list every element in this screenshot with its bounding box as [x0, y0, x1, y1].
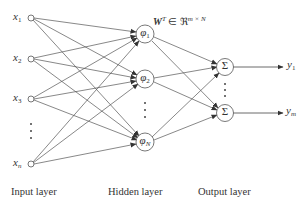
- sum-node-1: Σ: [217, 59, 233, 71]
- output-arrows: [233, 67, 283, 113]
- real-set-symbol: ∈ ℜ: [166, 16, 188, 27]
- input-nodes: [28, 15, 34, 167]
- hidden-nodes: [136, 25, 154, 151]
- input-label-xn: xn: [13, 156, 21, 170]
- output-label-ym: ym: [286, 104, 296, 118]
- input-to-hidden-connections: [33, 18, 139, 164]
- hidden-node-phi2: φ2: [136, 71, 154, 85]
- hidden-node-phiN: φN: [136, 134, 154, 148]
- hidden-node-phi1: φ1: [136, 26, 154, 40]
- hidden-to-output-connections: [152, 37, 219, 140]
- dimension-label: m × N: [188, 15, 206, 23]
- sum-node-m: Σ: [217, 105, 233, 117]
- input-layer-label: Input layer: [11, 186, 57, 197]
- input-label-x1: x1: [13, 10, 21, 24]
- weight-symbol: W: [153, 16, 162, 27]
- weight-matrix-label: WT ∈ ℜm × N: [153, 15, 206, 27]
- input-label-x2: x2: [13, 51, 21, 65]
- hidden-layer-label: Hidden layer: [108, 186, 163, 197]
- output-label-y1: y1: [287, 58, 295, 72]
- input-label-x3: x3: [13, 91, 21, 105]
- output-layer-label: Output layer: [198, 186, 251, 197]
